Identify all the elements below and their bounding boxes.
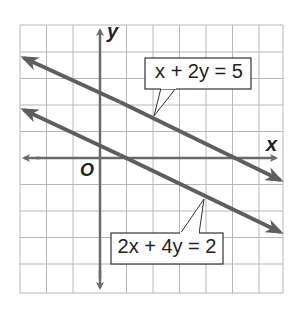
- equation-label-1: x + 2y = 5: [150, 60, 248, 83]
- origin-label: O: [80, 160, 94, 181]
- equation-label-2: 2x + 4y = 2: [113, 235, 221, 258]
- line-2x-plus-4y-eq-2: [24, 110, 280, 232]
- coordinate-plane: [0, 0, 298, 318]
- x-axis-label: x: [266, 133, 277, 156]
- y-axis-label: y: [107, 20, 118, 43]
